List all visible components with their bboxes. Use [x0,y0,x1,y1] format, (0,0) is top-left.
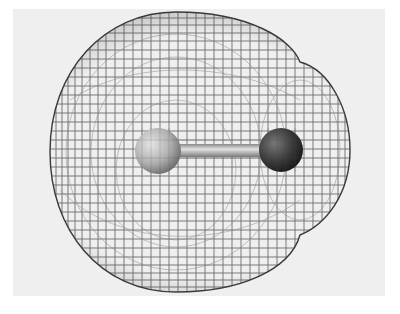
bond-cylinder [170,144,266,157]
isosurface-figure [0,0,400,314]
right-atom [259,128,303,172]
